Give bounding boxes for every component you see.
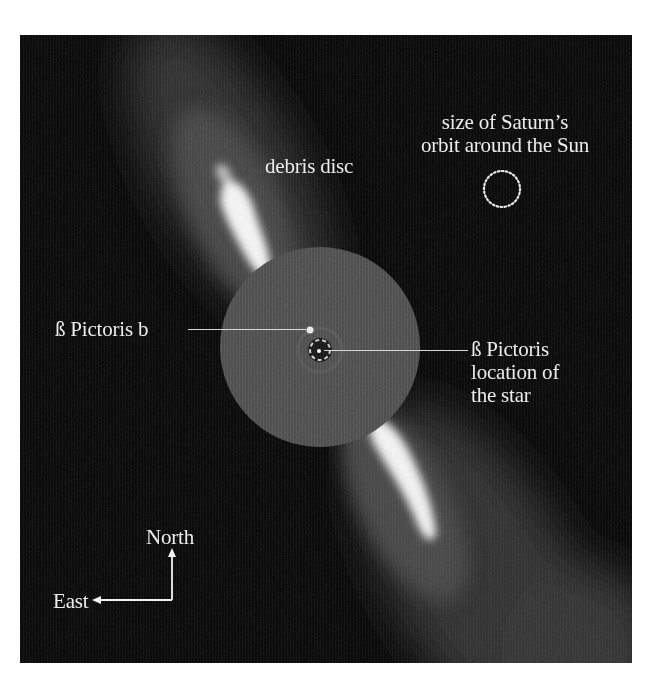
debris-disc-label: debris disc: [265, 155, 353, 178]
star-leader-line: [324, 350, 468, 351]
star-label: ß Pictoris location of the star: [471, 338, 559, 407]
star-label-line3: the star: [471, 384, 559, 407]
astronomy-image: debris disc size of Saturn’s orbit aroun…: [20, 35, 632, 663]
planet-label: ß Pictoris b: [55, 318, 148, 341]
saturn-orbit-label-line1: size of Saturn’s: [400, 111, 610, 134]
saturn-orbit-label-line2: orbit around the Sun: [400, 134, 610, 157]
compass-east-label: East: [53, 590, 88, 613]
saturn-orbit-label: size of Saturn’s orbit around the Sun: [400, 111, 610, 157]
star-label-line1: ß Pictoris: [471, 338, 559, 361]
planet-leader-line: [188, 329, 306, 330]
compass-north-label: North: [146, 526, 194, 549]
star-label-line2: location of: [471, 361, 559, 384]
